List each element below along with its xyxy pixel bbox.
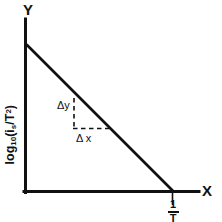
x-axis-value-label: 1 T <box>163 199 183 222</box>
y-axis-title-prefix: log <box>3 146 17 165</box>
delta-x-label: Δ x <box>76 133 91 144</box>
y-axis-title-power: 2 <box>4 109 13 113</box>
y-axis-title-close: ) <box>3 105 17 109</box>
y-axis-title-divide: /T <box>3 114 17 125</box>
delta-y-label: Δy <box>57 100 70 111</box>
plot-canvas <box>0 0 222 222</box>
x-axis-tip-label: X <box>202 183 212 198</box>
y-axis-title: log10(is/T2) <box>4 83 17 187</box>
y-axis-title-current-subscript: s <box>9 125 18 129</box>
y-axis-title-open: (i <box>3 129 17 137</box>
data-line <box>27 45 173 191</box>
x-axis-value-numerator: 1 <box>163 199 183 211</box>
y-axis-title-base: 10 <box>9 137 18 146</box>
x-axis-value-denominator: T <box>163 213 183 222</box>
chart-figure: Y X log10(is/T2) Δy Δ x 1 T <box>0 0 222 222</box>
y-axis-tip-label: Y <box>23 2 33 17</box>
